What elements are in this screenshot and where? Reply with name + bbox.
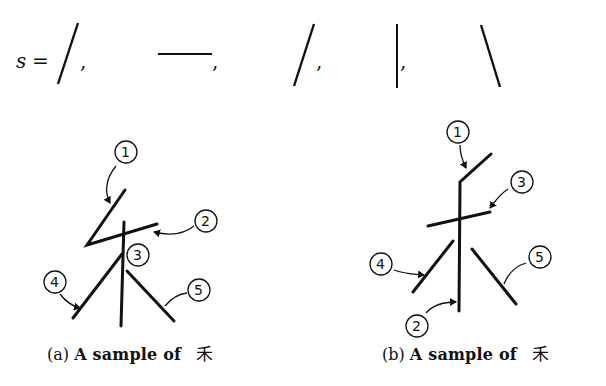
panel-a-stroke-vertical (121, 222, 124, 326)
panel-b-label-5: 5 (535, 249, 544, 265)
panel-b-stroke-1 (459, 154, 491, 311)
panel-b-caption: (b) A sample of 禾 (382, 340, 549, 365)
panel-b-label-4: 4 (376, 256, 385, 272)
sequence-variable: s (16, 49, 26, 73)
separator-2: , (212, 49, 218, 73)
stroke-slash-2 (294, 24, 314, 86)
panel-b-caption-character: 禾 (532, 344, 549, 364)
panel-a-caption-character: 禾 (196, 344, 213, 364)
panel-a-stroke-1 (87, 190, 157, 245)
panel-a-caption-text: A sample of (74, 345, 181, 364)
panel-a-stroke-5 (127, 271, 174, 321)
panel-a-label-1: 1 (121, 144, 130, 160)
panel-b-label-2: 2 (412, 318, 421, 334)
panel-b-caption-label: (b) (382, 345, 405, 364)
panel-b-caption-text: A sample of (410, 345, 517, 364)
stroke-slash-1 (58, 23, 78, 84)
panel-a-character (73, 190, 174, 326)
panel-a-stroke-4 (73, 254, 122, 318)
separator-3: , (316, 49, 322, 73)
panel-b-stroke-4 (413, 241, 453, 292)
panel-a-label-2: 2 (201, 213, 210, 229)
figure-canvas: s = , , , , 1 2 3 4 5 (0, 0, 606, 386)
equals-sign: = (32, 49, 49, 73)
separator-1: , (80, 49, 86, 73)
panel-a-label-3: 3 (133, 247, 142, 263)
separator-4: , (400, 49, 406, 73)
stroke-sequence: s = , , , , (16, 23, 500, 88)
panel-b-stroke-5 (472, 249, 516, 304)
stroke-backslash (481, 25, 500, 87)
panel-a-label-5: 5 (194, 282, 203, 298)
panel-a-caption: (a) A sample of 禾 (47, 340, 213, 365)
panel-b-label-3: 3 (517, 174, 526, 190)
panel-a-label-4: 4 (50, 274, 59, 290)
panel-a-caption-label: (a) (47, 345, 69, 364)
panel-b-character (413, 154, 516, 311)
panel-a-annotations (44, 141, 217, 308)
panel-b-label-1: 1 (453, 124, 462, 140)
